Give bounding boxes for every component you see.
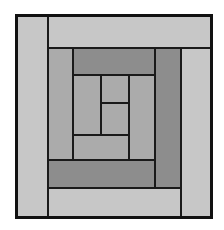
log-ring3-right — [129, 75, 155, 160]
log-ring1-top — [48, 15, 211, 48]
log-ring1-left — [16, 15, 48, 217]
log-ring3-bottom — [73, 135, 129, 160]
log-ring1-bottom — [48, 188, 181, 217]
log-ring3-top — [101, 75, 129, 103]
log-ring1-right — [181, 48, 211, 217]
log-ring2-right — [155, 48, 181, 188]
log-cabin-quilt-block — [0, 0, 224, 230]
log-ring3-left — [73, 75, 101, 135]
log-center-square — [101, 103, 129, 135]
logs-group — [16, 15, 211, 217]
log-ring2-bottom — [48, 160, 155, 188]
quilt-block-canvas — [0, 0, 224, 230]
